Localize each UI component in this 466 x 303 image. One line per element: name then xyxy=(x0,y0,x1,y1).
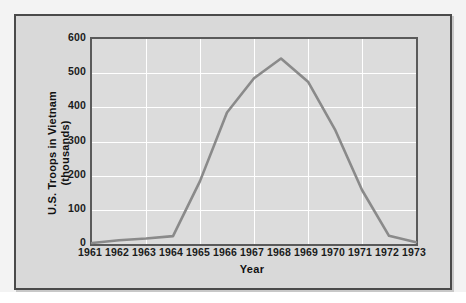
y-axis-tick-label: 400 xyxy=(40,100,86,111)
y-axis-tick-label: 500 xyxy=(40,66,86,77)
x-axis-ticks: 1961196219631964196519661967196819691970… xyxy=(90,246,414,262)
y-axis-tick-label: 600 xyxy=(40,32,86,43)
x-axis-title: Year xyxy=(90,263,414,275)
y-axis-tick-label: 200 xyxy=(40,168,86,179)
chart-frame: U.S. Troops in Vietnam (thousands) 01002… xyxy=(14,14,452,290)
y-axis-tick-label: 300 xyxy=(40,134,86,145)
chart-canvas: U.S. Troops in Vietnam (thousands) 01002… xyxy=(16,16,450,288)
data-series-line xyxy=(92,39,416,244)
y-axis-tick-label: 100 xyxy=(40,202,86,213)
x-axis-tick-label: 1973 xyxy=(394,246,434,258)
y-axis-ticks: 0100200300400500600 xyxy=(36,37,86,242)
figure-root: U.S. Troops in Vietnam (thousands) 01002… xyxy=(0,0,466,303)
plot-area xyxy=(90,37,418,246)
